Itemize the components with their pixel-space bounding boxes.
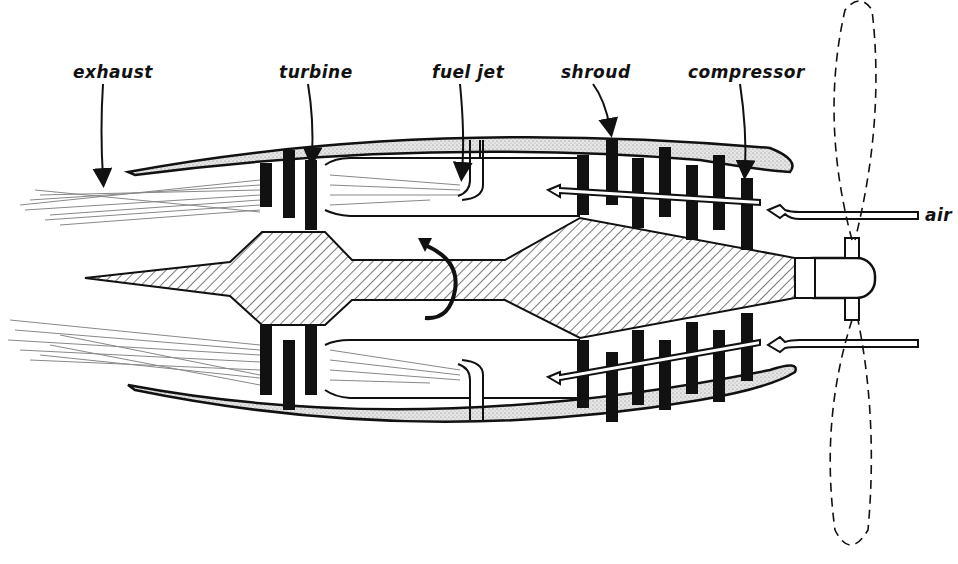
exhaust-plume-bottom: [8, 320, 460, 385]
exhaust-leader: [102, 84, 104, 178]
shroud-leader: [593, 84, 610, 128]
exhaust-plume-top: [20, 175, 460, 225]
label-turbine: turbine: [279, 62, 353, 82]
turboprop-diagram: [0, 0, 958, 564]
label-fuel-jet: fuel jet: [432, 62, 504, 82]
label-compressor: compressor: [688, 62, 805, 82]
label-exhaust: exhaust: [73, 62, 153, 82]
label-air: air: [925, 205, 952, 225]
label-shroud: shroud: [561, 62, 631, 82]
